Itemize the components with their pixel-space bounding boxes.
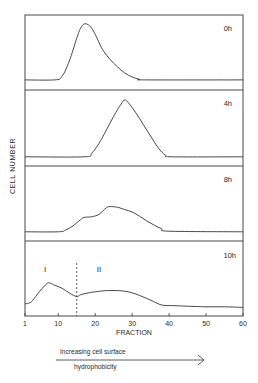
arrow-caption-line2: hydrophobicity bbox=[74, 363, 117, 371]
x-tick-label: 40 bbox=[165, 320, 173, 327]
series-line-8h bbox=[25, 207, 243, 232]
panel-label-4h: 4h bbox=[224, 99, 232, 108]
x-axis-label: FRACTION bbox=[116, 329, 152, 336]
chart-canvas: 0h 4h 8h 10h I II 1102030405060 FRACTION… bbox=[0, 0, 258, 383]
x-tick-label: 10 bbox=[54, 320, 62, 327]
x-tick-label: 30 bbox=[128, 320, 136, 327]
series-group bbox=[25, 24, 243, 308]
x-tick-label: 20 bbox=[91, 320, 99, 327]
x-tick-label: 1 bbox=[23, 320, 27, 327]
series-line-4h bbox=[25, 100, 243, 157]
region-label-ii: II bbox=[97, 265, 101, 274]
x-tick-label: 60 bbox=[239, 320, 247, 327]
panel-label-0h: 0h bbox=[224, 24, 232, 33]
series-line-10h bbox=[25, 283, 243, 308]
plot-frame bbox=[25, 15, 243, 316]
region-label-i: I bbox=[44, 265, 46, 274]
series-line-0h bbox=[25, 24, 243, 80]
x-tick-label: 50 bbox=[202, 320, 210, 327]
panel-label-8h: 8h bbox=[224, 175, 232, 184]
x-axis-ticks: 1102030405060 bbox=[23, 313, 247, 327]
panel-label-10h: 10h bbox=[223, 251, 236, 260]
arrow-caption-line1: Increasing cell surface bbox=[60, 348, 126, 356]
y-axis-label: CELL NUMBER bbox=[9, 138, 16, 194]
